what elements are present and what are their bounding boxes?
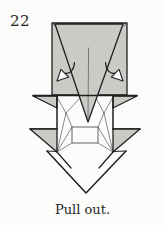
- upper-wing-flap-left: [33, 96, 57, 108]
- tail-triangle: [47, 151, 126, 193]
- lower-wing-flap-right: [113, 129, 140, 152]
- origami-diagram: [0, 0, 165, 225]
- step-caption: Pull out.: [0, 202, 165, 218]
- upper-wing-flap-right: [113, 96, 137, 108]
- origami-step-panel: 22: [0, 0, 165, 225]
- center-pocket-rectangle: [72, 127, 98, 143]
- lower-wing-flap-left: [30, 129, 57, 152]
